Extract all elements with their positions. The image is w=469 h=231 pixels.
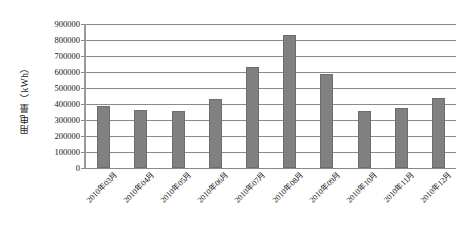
y-axis-tick-label: 900000 (36, 20, 80, 29)
plot-area (84, 24, 456, 168)
y-axis-tick-label: 100000 (36, 148, 80, 157)
x-axis-tick-label: 2010年07月 (233, 170, 268, 205)
x-axis-tick-labels: 2010年03月2010年04月2010年05月2010年06月2010年07月… (84, 168, 456, 230)
y-axis-tick-label: 800000 (36, 36, 80, 45)
x-axis-tick-label: 2010年11月 (382, 170, 416, 204)
bar (246, 67, 259, 168)
x-axis-tick-label: 2010年06月 (196, 170, 231, 205)
y-axis-tick-labels: 0100000200000300000400000500000600000700… (36, 18, 80, 170)
y-axis-tick-label: 0 (36, 164, 80, 173)
bar (172, 111, 185, 168)
bar (358, 111, 371, 168)
x-axis-tick-label: 2010年08月 (270, 170, 305, 205)
y-axis-title-text: 用电量（kWh） (18, 62, 32, 134)
bar (283, 35, 296, 168)
bar-chart: 用电量（kWh） 0100000200000300000400000500000… (0, 0, 469, 231)
x-axis-tick-label: 2010年10月 (345, 170, 380, 205)
x-axis-tick-label: 2010年04月 (122, 170, 157, 205)
y-axis-tick-label: 600000 (36, 68, 80, 77)
x-axis-tick-label: 2010年09月 (308, 170, 343, 205)
bar (395, 108, 408, 168)
bar (134, 110, 147, 168)
x-axis-tick-label: 2010年12月 (419, 170, 454, 205)
bar (320, 74, 333, 168)
y-axis-tick-label: 500000 (36, 84, 80, 93)
bar (209, 99, 222, 168)
y-axis-tick-label: 700000 (36, 52, 80, 61)
x-axis-tick-label: 2010年03月 (84, 170, 119, 205)
y-axis-title: 用电量（kWh） (14, 38, 36, 158)
x-axis-tick-label: 2010年05月 (159, 170, 194, 205)
bars-group (85, 24, 456, 168)
bar (97, 106, 110, 168)
y-axis-tick-label: 200000 (36, 132, 80, 141)
y-axis-tick-label: 400000 (36, 100, 80, 109)
y-axis-tick-label: 300000 (36, 116, 80, 125)
bar (432, 98, 445, 168)
